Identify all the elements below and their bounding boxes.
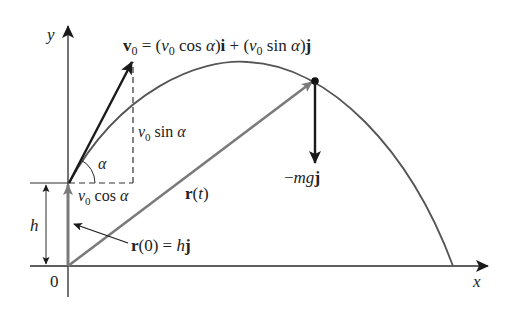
angle-alpha-label: α [98, 155, 107, 172]
v0-equation-label: v0 = (v0 cos α)i + (v0 sin α)j [123, 36, 311, 58]
initial-position-label: r(0) = hj [131, 236, 191, 255]
trajectory-curve [69, 62, 453, 266]
vsin-label: v0 sin α [138, 123, 186, 143]
position-rt-label: r(t) [185, 184, 209, 203]
projectile-diagram: y x 0 v0 = (v0 cos α)i + (v0 sin α)j v0 … [0, 0, 510, 313]
angle-alpha-arc [81, 160, 95, 183]
x-axis-label: x [472, 272, 481, 291]
vcos-label: v0 cos α [78, 187, 129, 207]
y-axis-label: y [45, 25, 55, 44]
origin-label: 0 [50, 272, 59, 291]
gravity-force-label: −mgj [284, 168, 320, 187]
height-label: h [30, 216, 39, 235]
